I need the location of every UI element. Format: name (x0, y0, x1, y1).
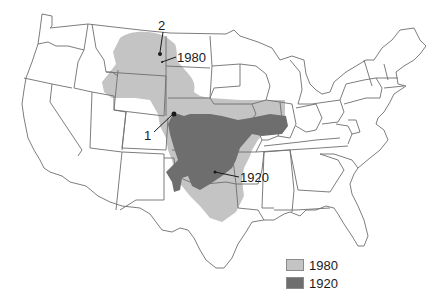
point-1-marker (172, 112, 177, 117)
legend-item-1980: 1980 (286, 256, 338, 274)
point-2-marker (158, 52, 162, 56)
legend-label-1920: 1920 (309, 276, 338, 291)
label-1: 1 (144, 128, 151, 143)
legend-item-1920: 1920 (286, 274, 338, 292)
legend: 1980 1920 (286, 256, 338, 292)
label-1980: 1980 (177, 50, 206, 65)
legend-swatch-1980 (286, 259, 304, 271)
legend-swatch-1920 (286, 277, 304, 289)
label-2: 2 (158, 18, 165, 33)
point-1980-marker (161, 61, 163, 63)
us-map: 2 1980 1 1920 (0, 0, 445, 305)
label-1920: 1920 (240, 170, 269, 185)
legend-label-1980: 1980 (309, 258, 338, 273)
point-1920-marker (214, 171, 217, 174)
